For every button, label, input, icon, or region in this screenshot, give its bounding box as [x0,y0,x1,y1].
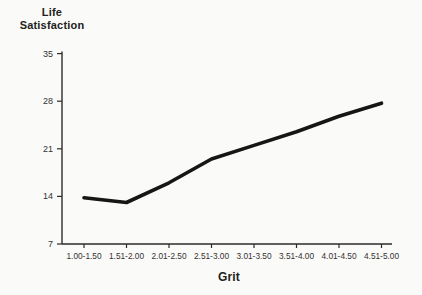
x-tick-label: 2.51-3.00 [194,251,229,261]
y-tick-label: 14 [43,191,53,201]
y-tick-label: 28 [43,96,53,106]
x-tick-label: 3.01-3.50 [236,251,271,261]
x-tick-label: 4.01-4.50 [321,251,356,261]
x-axis-title: Grit [198,270,260,284]
y-tick-label: 7 [48,239,53,249]
chart-canvas: Life Satisfaction 7142128351.00-1.501.51… [0,0,422,295]
x-tick-label: 3.51-4.00 [279,251,314,261]
y-tick-label: 21 [43,144,53,154]
data-line [84,103,382,202]
x-tick-label: 4.51-5.00 [364,251,399,261]
line-chart: 7142128351.00-1.501.51-2.002.01-2.502.51… [0,0,422,295]
x-tick-label: 1.51-2.00 [109,251,144,261]
x-tick-label: 1.00-1.50 [66,251,101,261]
x-tick-label: 2.01-2.50 [151,251,186,261]
y-tick-label: 35 [43,49,53,59]
